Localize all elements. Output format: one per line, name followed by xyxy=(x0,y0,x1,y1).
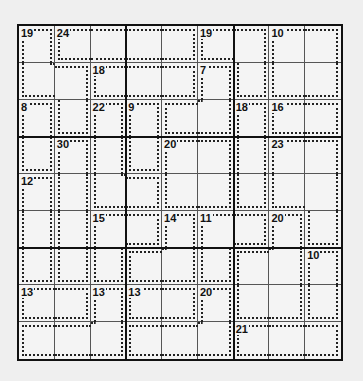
grid-cell[interactable] xyxy=(269,322,305,359)
cage-sum-label: 19 xyxy=(21,28,34,39)
grid-cell[interactable] xyxy=(269,174,305,211)
cage-sum-label: 18 xyxy=(93,65,106,76)
grid-cell[interactable] xyxy=(269,63,305,100)
cage-sum-label: 23 xyxy=(271,139,284,150)
grid-cell[interactable] xyxy=(55,248,91,285)
grid-cell[interactable] xyxy=(198,137,234,174)
grid-cell[interactable] xyxy=(126,211,162,248)
box-divider xyxy=(19,247,341,249)
grid-cell[interactable] xyxy=(305,100,341,137)
grid-cell[interactable] xyxy=(162,100,198,137)
grid-cell[interactable] xyxy=(91,248,127,285)
grid-cell[interactable] xyxy=(19,137,55,174)
grid-cell[interactable] xyxy=(162,322,198,359)
grid-cell[interactable] xyxy=(162,285,198,322)
cage-sum-label: 19 xyxy=(200,28,213,39)
grid-cell[interactable] xyxy=(162,63,198,100)
grid-cell[interactable] xyxy=(55,100,91,137)
grid-cell[interactable] xyxy=(234,63,270,100)
grid-cell[interactable] xyxy=(55,63,91,100)
grid-cell[interactable] xyxy=(305,322,341,359)
cage-sum-label: 9 xyxy=(128,102,135,113)
grid-cell[interactable] xyxy=(19,211,55,248)
cage-sum-label: 20 xyxy=(200,287,213,298)
grid-cell[interactable] xyxy=(19,63,55,100)
grid-cell[interactable] xyxy=(126,322,162,359)
grid-cell[interactable] xyxy=(198,174,234,211)
cage-sum-label: 30 xyxy=(57,139,70,150)
box-divider xyxy=(233,26,235,359)
grid-cell[interactable] xyxy=(198,248,234,285)
cage-sum-label: 15 xyxy=(93,213,106,224)
grid-cell[interactable] xyxy=(305,211,341,248)
grid-cell[interactable] xyxy=(305,174,341,211)
grid-cell[interactable] xyxy=(91,26,127,63)
cage-sum-label: 14 xyxy=(164,213,177,224)
grid-cell[interactable] xyxy=(162,174,198,211)
box-divider xyxy=(125,26,127,359)
cage-sum-label: 11 xyxy=(200,213,213,224)
grid-cell[interactable] xyxy=(305,137,341,174)
grid-cell[interactable] xyxy=(234,26,270,63)
grid-cell[interactable] xyxy=(91,322,127,359)
grid-cell[interactable] xyxy=(126,137,162,174)
grid-cell[interactable] xyxy=(305,63,341,100)
grid-cell[interactable] xyxy=(126,63,162,100)
grid-cell[interactable] xyxy=(55,285,91,322)
grid-cell[interactable] xyxy=(198,100,234,137)
grid-cell[interactable] xyxy=(162,248,198,285)
grid-cell[interactable] xyxy=(55,174,91,211)
cage-sum-label: 13 xyxy=(93,287,106,298)
cage-sum-label: 12 xyxy=(21,176,34,187)
grid-cell[interactable] xyxy=(126,174,162,211)
grid-cell[interactable] xyxy=(234,211,270,248)
cage-sum-label: 21 xyxy=(236,324,249,335)
grid-cell[interactable] xyxy=(91,174,127,211)
grid-cell[interactable] xyxy=(305,26,341,63)
cage-sum-label: 10 xyxy=(271,28,284,39)
cage-sum-label: 16 xyxy=(271,102,284,113)
cage-sum-label: 20 xyxy=(271,213,284,224)
grid-cell[interactable] xyxy=(198,322,234,359)
cage-sum-label: 22 xyxy=(93,102,106,113)
cage-sum-label: 8 xyxy=(21,102,28,113)
grid-cell[interactable] xyxy=(126,248,162,285)
grid-cell[interactable] xyxy=(234,285,270,322)
cage-sum-label: 20 xyxy=(164,139,177,150)
killer-sudoku-grid: 1924191018782291816302023121514112010131… xyxy=(17,24,343,361)
grid-cell[interactable] xyxy=(126,26,162,63)
grid-cell[interactable] xyxy=(305,285,341,322)
cage-sum-label: 24 xyxy=(57,28,70,39)
grid-cell[interactable] xyxy=(234,137,270,174)
cage-sum-label: 13 xyxy=(21,287,34,298)
grid-cell[interactable] xyxy=(234,174,270,211)
grid-cell[interactable] xyxy=(19,322,55,359)
grid-cell[interactable] xyxy=(269,285,305,322)
grid-cell[interactable] xyxy=(91,137,127,174)
grid-cell[interactable] xyxy=(19,248,55,285)
grid-cell[interactable] xyxy=(55,211,91,248)
cage-sum-label: 13 xyxy=(128,287,141,298)
cage-sum-label: 7 xyxy=(200,65,207,76)
box-divider xyxy=(19,136,341,138)
cage-sum-label: 18 xyxy=(236,102,249,113)
cage-sum-label: 10 xyxy=(307,250,320,261)
grid-cell[interactable] xyxy=(234,248,270,285)
grid-cell[interactable] xyxy=(162,26,198,63)
grid-cell[interactable] xyxy=(55,322,91,359)
grid-cell[interactable] xyxy=(269,248,305,285)
